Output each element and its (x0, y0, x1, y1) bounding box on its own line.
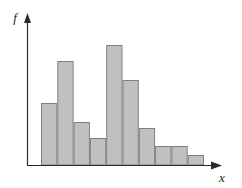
histogram-bar (74, 123, 89, 166)
y-axis-arrowhead (24, 13, 31, 23)
y-axis-label: f (13, 10, 19, 25)
histogram-bar (42, 104, 57, 166)
histogram-figure: f x (0, 0, 242, 188)
histogram-bar (139, 129, 154, 166)
bar-series (42, 46, 204, 166)
histogram-bar (58, 62, 73, 166)
histogram-bar (90, 139, 105, 166)
x-axis-arrowhead (211, 162, 222, 170)
histogram-bar (172, 147, 187, 166)
histogram-bar (107, 46, 122, 166)
histogram-plot: f x (0, 0, 242, 188)
histogram-bar (188, 156, 203, 166)
x-axis-label: x (218, 170, 225, 185)
histogram-bar (156, 147, 171, 166)
histogram-bar (123, 81, 138, 166)
